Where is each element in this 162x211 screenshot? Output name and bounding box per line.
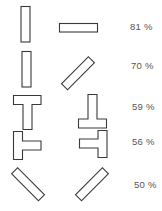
row2-left-vertical-bar — [22, 52, 31, 88]
row3-left-t-shape — [14, 96, 42, 130]
row3-right-inverted-t-shape — [79, 95, 107, 129]
row1-right-horizontal-bar — [60, 24, 98, 33]
row5-percent-label: 50 % — [134, 180, 157, 190]
row5-left-diagonal-bar — [12, 168, 45, 201]
row4-left-rotated-t-shape — [14, 132, 42, 160]
row4-right-rotated-t-shape — [80, 131, 108, 158]
row3-percent-label: 59 % — [132, 102, 155, 112]
row4-percent-label: 56 % — [132, 137, 155, 147]
row2-right-diagonal-bar — [62, 57, 95, 90]
row1-percent-label: 81 % — [130, 22, 153, 32]
row2-percent-label: 70 % — [131, 61, 154, 71]
row5-right-diagonal-bar — [76, 168, 109, 201]
row1-left-vertical-bar — [21, 7, 30, 43]
